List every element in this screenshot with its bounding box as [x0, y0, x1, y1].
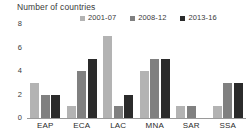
x-axis-tick-label: LAC [100, 121, 137, 131]
legend-swatch-icon [180, 16, 185, 21]
bar-lac-2013-16[interactable] [124, 95, 133, 119]
bar-eap-2001-07[interactable] [30, 83, 39, 118]
bar-eca-2001-07[interactable] [67, 106, 76, 118]
bar-lac-2001-07[interactable] [103, 36, 112, 118]
bar-chart: Number of countries 2001-07 2008-12 2013… [0, 0, 250, 138]
bar-eap-2013-16[interactable] [51, 95, 60, 119]
bar-group-ssa [210, 24, 247, 118]
legend-item-2013-16[interactable]: 2013-16 [180, 14, 216, 22]
legend-item-2001-07[interactable]: 2001-07 [80, 14, 116, 22]
y-axis-tick-label: 6 [18, 44, 22, 52]
x-axis-tick-label: SSA [210, 121, 247, 131]
legend-label: 2001-07 [88, 14, 116, 22]
legend-swatch-icon [80, 16, 85, 21]
legend-label: 2008-12 [138, 14, 166, 22]
bar-mna-2013-16[interactable] [161, 59, 170, 118]
bar-group-lac [100, 24, 137, 118]
legend-label: 2013-16 [188, 14, 216, 22]
x-axis-tick-label: ECA [64, 121, 101, 131]
bar-eca-2008-12[interactable] [77, 71, 86, 118]
chart-legend: 2001-07 2008-12 2013-16 [80, 14, 217, 22]
y-axis: 02468 [8, 0, 22, 138]
chart-axis-title: Number of countries [17, 2, 95, 12]
bar-eap-2008-12[interactable] [41, 95, 50, 119]
bar-groups [27, 24, 246, 118]
x-axis-tick-label: SAR [173, 121, 210, 131]
y-axis-tick-label: 4 [18, 67, 22, 75]
x-axis-labels: EAPECALACMNASARSSA [27, 121, 246, 131]
bar-sar-2008-12[interactable] [187, 106, 196, 118]
bar-lac-2008-12[interactable] [114, 106, 123, 118]
bar-group-sar [173, 24, 210, 118]
bar-ssa-2013-16[interactable] [234, 83, 243, 118]
bar-mna-2001-07[interactable] [140, 71, 149, 118]
x-axis-tick-label: EAP [27, 121, 64, 131]
bar-group-eap [27, 24, 64, 118]
y-axis-tick-label: 0 [18, 114, 22, 122]
bar-eca-2013-16[interactable] [88, 59, 97, 118]
bar-ssa-2008-12[interactable] [223, 83, 232, 118]
bar-group-eca [64, 24, 101, 118]
legend-item-2008-12[interactable]: 2008-12 [130, 14, 166, 22]
bar-group-mna [137, 24, 174, 118]
y-axis-tick-label: 2 [18, 91, 22, 99]
bar-ssa-2001-07[interactable] [213, 106, 222, 118]
y-axis-tick-label: 8 [18, 20, 22, 28]
legend-swatch-icon [130, 16, 135, 21]
x-axis-line [27, 118, 246, 119]
bar-mna-2008-12[interactable] [150, 59, 159, 118]
bar-sar-2001-07[interactable] [176, 106, 185, 118]
plot-area [27, 24, 246, 118]
x-axis-tick-label: MNA [137, 121, 174, 131]
